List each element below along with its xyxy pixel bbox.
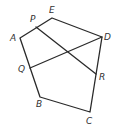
pentagon-abcde [20, 18, 102, 112]
label-c: C [86, 116, 93, 126]
label-q: Q [18, 64, 25, 74]
segment-qd [30, 37, 102, 68]
geometry-diagram: A E D C B P Q R [0, 0, 118, 129]
segment-pr [36, 27, 96, 74]
label-r: R [99, 72, 105, 82]
label-a: A [9, 33, 16, 43]
label-b: B [36, 99, 42, 109]
label-p: P [30, 14, 36, 24]
label-d: D [104, 32, 111, 42]
label-e: E [49, 5, 55, 15]
